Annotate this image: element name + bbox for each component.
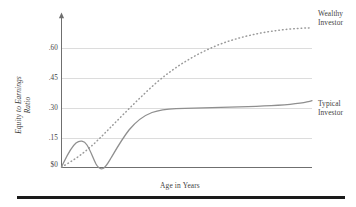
legend-typical-investor: Typical Investor [318, 99, 343, 117]
legend-wealthy-line2: Investor [318, 18, 343, 27]
y-axis-arrow [59, 13, 64, 19]
y-axis [59, 13, 64, 168]
legend-typical-line1: Typical [318, 99, 343, 108]
ytick-label-045: .45 [32, 74, 58, 82]
y-axis-title-line1: Equity to Earnings [14, 76, 23, 134]
ytick-label-015: .15 [32, 134, 58, 142]
bottom-rule [17, 196, 345, 199]
series-typical-investor [62, 101, 313, 169]
ytick-label-060: .60 [32, 44, 58, 52]
y-axis-title-line2: Ratio [23, 76, 32, 134]
legend-wealthy-line1: Wealthy [318, 9, 343, 18]
legend-wealthy-investor: Wealthy Investor [318, 9, 343, 27]
ytick-label-030: .30 [32, 104, 58, 112]
y-axis-title: Equity to Earnings Ratio [14, 62, 32, 148]
ytick-label-zero: $0 [32, 161, 58, 169]
x-axis-title: Age in Years [120, 181, 240, 190]
gridlines [61, 49, 312, 139]
chart-figure: .60 .45 .30 .15 $0 Equity to Earnings Ra… [0, 0, 356, 207]
legend-typical-line2: Investor [318, 108, 343, 117]
